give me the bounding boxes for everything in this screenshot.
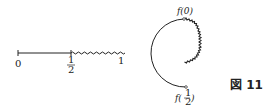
unit-interval: 0 1 2 1 xyxy=(15,50,125,75)
interval-wavy-part xyxy=(71,52,125,54)
point-f0 xyxy=(183,18,186,21)
label-0: 0 xyxy=(15,58,21,69)
figure-caption: 図 11 xyxy=(230,75,263,92)
label-f-half-suffix: ) xyxy=(190,93,195,103)
circle-image: f(0) f( 1 2 ) xyxy=(151,6,201,106)
label-half-denominator: 2 xyxy=(68,64,74,75)
label-1: 1 xyxy=(118,55,124,66)
circle-wavy-arc xyxy=(184,18,201,63)
label-f0: f(0) xyxy=(176,6,194,16)
label-f-half-prefix: f( xyxy=(174,93,182,103)
circle-smooth-arc xyxy=(151,19,186,87)
